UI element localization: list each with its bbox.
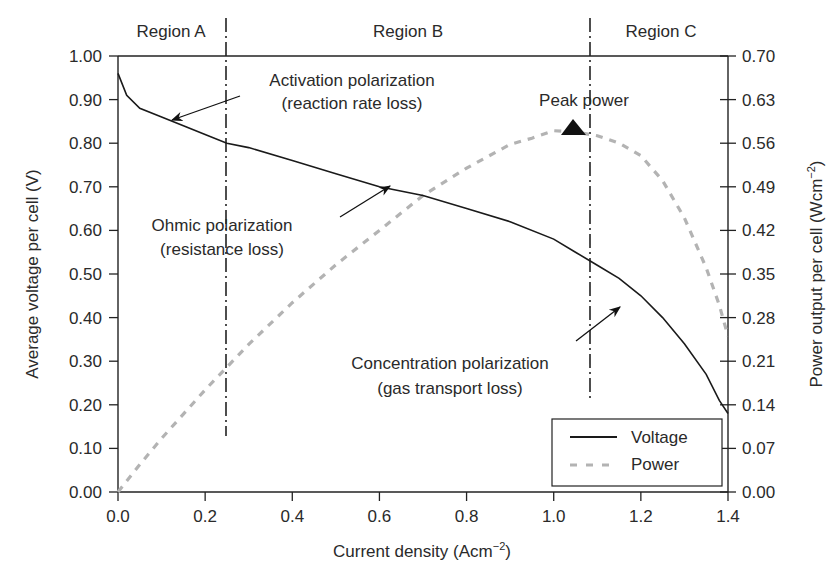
- ohmic-annotation-line2: (resistance loss): [160, 240, 284, 259]
- x-tick-label: 1.2: [629, 507, 653, 526]
- y-left-tick-label: 0.80: [69, 134, 102, 153]
- y-right-tick-label: 0.07: [742, 439, 775, 458]
- x-axis-title-sup: −2: [493, 540, 506, 552]
- y-right-tick-label: 0.70: [742, 47, 775, 66]
- legend: Voltage Power: [552, 419, 722, 486]
- y-axis-left-title: Average voltage per cell (V): [23, 169, 42, 378]
- y-right-tick-label: 0.14: [742, 396, 775, 415]
- region-a-label: Region A: [137, 22, 207, 41]
- region-b-label: Region B: [373, 22, 443, 41]
- y-right-tick-label: 0.28: [742, 309, 775, 328]
- x-tick-label: 0.2: [193, 507, 217, 526]
- region-c-label: Region C: [626, 22, 697, 41]
- y-left-tick-label: 0.20: [69, 396, 102, 415]
- x-axis-title: Current density (Acm−2): [333, 540, 511, 561]
- legend-voltage-label: Voltage: [631, 428, 688, 447]
- y-left-tick-label: 0.30: [69, 352, 102, 371]
- y-axis-right-title: Power output per cell (Wcm−2): [805, 160, 826, 387]
- y-right-tick-label: 0.21: [742, 352, 775, 371]
- concentration-annotation-line2: (gas transport loss): [377, 379, 523, 398]
- peak-power-label: Peak power: [539, 91, 629, 110]
- y-left-tick-label: 0.60: [69, 221, 102, 240]
- y-left-tick-label: 1.00: [69, 47, 102, 66]
- x-tick-label: 0.6: [368, 507, 392, 526]
- legend-power-label: Power: [631, 455, 680, 474]
- y-right-tick-label: 0.42: [742, 221, 775, 240]
- x-tick-label: 1.0: [542, 507, 566, 526]
- y-right-tick-label: 0.49: [742, 178, 775, 197]
- y-left-tick-label: 0.50: [69, 265, 102, 284]
- y-axis-left-ticks: 0.000.100.200.300.400.500.600.700.800.90…: [69, 47, 118, 502]
- activation-annotation-line1: Activation polarization: [269, 71, 434, 90]
- y-axis-right-title-sup: −2: [805, 166, 817, 179]
- y-left-tick-label: 0.70: [69, 178, 102, 197]
- y-left-tick-label: 0.00: [69, 483, 102, 502]
- fuel-cell-polarization-chart: Region A Region B Region C 0.000.100.200…: [0, 0, 839, 577]
- x-tick-label: 0.8: [455, 507, 479, 526]
- y-axis-right-title-close: ): [807, 160, 826, 166]
- y-left-tick-label: 0.40: [69, 309, 102, 328]
- concentration-arrow-icon: [576, 307, 620, 341]
- x-tick-label: 0.0: [106, 507, 130, 526]
- concentration-annotation-line1: Concentration polarization: [351, 354, 549, 373]
- y-axis-right-title-main: Power output per cell (Wcm: [807, 179, 826, 388]
- activation-annotation-line2: (reaction rate loss): [282, 94, 423, 113]
- peak-power-triangle-icon: [561, 119, 586, 135]
- x-axis-title-main: Current density (Acm: [333, 542, 493, 561]
- y-right-tick-label: 0.63: [742, 91, 775, 110]
- ohmic-arrow-icon: [340, 186, 390, 217]
- x-axis-title-close: ): [505, 542, 511, 561]
- y-left-tick-label: 0.90: [69, 91, 102, 110]
- y-right-tick-label: 0.56: [742, 134, 775, 153]
- y-left-tick-label: 0.10: [69, 439, 102, 458]
- ohmic-annotation-line1: Ohmic polarization: [152, 216, 293, 235]
- x-axis-ticks: 0.00.20.40.60.81.01.21.4: [106, 492, 740, 526]
- x-tick-label: 0.4: [280, 507, 304, 526]
- y-right-tick-label: 0.35: [742, 265, 775, 284]
- y-right-tick-label: 0.00: [742, 483, 775, 502]
- x-tick-label: 1.4: [716, 507, 740, 526]
- activation-arrow-icon: [172, 96, 240, 120]
